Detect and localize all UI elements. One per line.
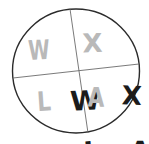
quadrant-letter-top-right-ghost: X xyxy=(82,30,103,57)
quadrant-letter-bottom-right-main: A xyxy=(129,135,149,144)
quadrant-letter-bottom-left-ghost: L xyxy=(36,87,52,115)
quadrant-letter-bottom-right: A A xyxy=(91,82,149,144)
quadrant-letter-top-left-ghost: W xyxy=(27,36,50,64)
quadrant-circle-figure: W W X X L L A A xyxy=(0,0,149,144)
quadrant-letter-bottom-right-ghost: A xyxy=(88,83,105,110)
